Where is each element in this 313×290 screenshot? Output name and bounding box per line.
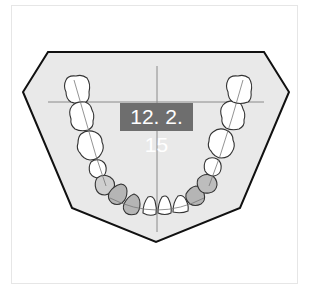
tooth-right-molar-1[interactable] (208, 129, 234, 158)
tooth-right-premolar-1[interactable] (197, 175, 217, 194)
tooth-right-molar-3[interactable] (227, 75, 252, 103)
date-label: 12. 2. 15 (120, 103, 193, 131)
